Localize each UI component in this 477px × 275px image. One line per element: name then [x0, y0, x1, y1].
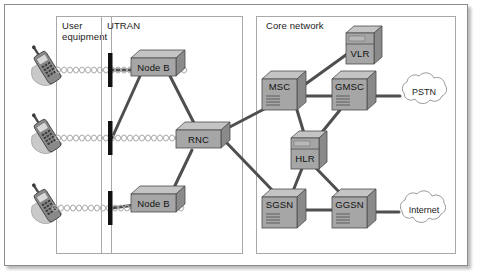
handset-middle: [28, 110, 187, 154]
antenna-bottom: [108, 191, 113, 225]
node-ggsn: GGSN: [332, 189, 376, 228]
node-label-node-b-top: Node B: [137, 62, 169, 73]
node-label-hlr: HLR: [295, 153, 314, 164]
cloud-label-internet: Internet: [409, 205, 440, 215]
node-label-sgsn: SGSN: [266, 199, 293, 210]
antenna-top: [108, 53, 113, 87]
node-label-msc: MSC: [269, 81, 290, 92]
link-rnc-sgsn: [224, 140, 274, 192]
diagram-canvas: Node B Node B RNC MSC: [0, 0, 477, 275]
node-hlr: HLR: [291, 131, 327, 169]
node-label-node-b-bottom: Node B: [137, 198, 169, 209]
node-label-rnc: RNC: [188, 134, 209, 145]
link-nodeb-top-rnc: [170, 76, 196, 127]
diagram-root: User equipment UTRAN Core network: [0, 0, 477, 275]
node-label-gmsc: GMSC: [335, 81, 364, 92]
node-node-b-bottom: Node B: [131, 186, 185, 212]
node-sgsn: SGSN: [262, 189, 306, 228]
node-rnc: RNC: [176, 122, 230, 148]
node-msc: MSC: [262, 71, 306, 110]
node-label-vlr: VLR: [351, 48, 370, 59]
node-vlr: VLR: [346, 26, 382, 64]
antenna-middle: [108, 121, 113, 155]
node-label-ggsn: GGSN: [335, 199, 363, 210]
cloud-label-pstn: PSTN: [412, 87, 436, 97]
node-gmsc: GMSC: [332, 71, 376, 110]
cloud-pstn: PSTN: [402, 73, 446, 104]
node-node-b-top: Node B: [131, 50, 185, 76]
link-antenna-middle-nodeb: [112, 76, 140, 138]
cloud-internet: Internet: [400, 191, 445, 223]
